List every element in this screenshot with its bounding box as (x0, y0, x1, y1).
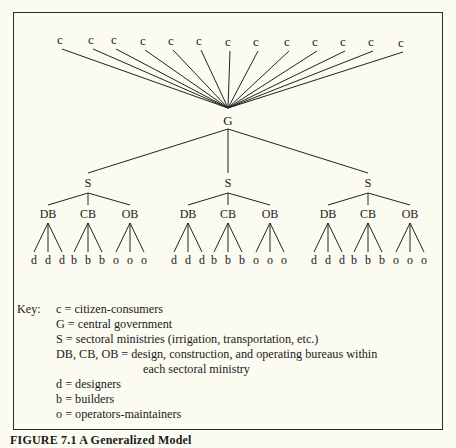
node-leaf-o: o (393, 253, 399, 267)
node-leaf-b: b (211, 253, 217, 267)
edge-line (214, 223, 228, 252)
node-bureau-db: DB (180, 207, 197, 221)
edge-line (368, 193, 410, 205)
edge-line (188, 223, 202, 252)
node-leaf-d: d (325, 253, 331, 267)
edge-line (116, 223, 130, 252)
key-entry-government: G = central government (56, 317, 172, 332)
edge-line (228, 51, 345, 108)
edge-line (74, 223, 88, 252)
edge-line (228, 51, 289, 108)
node-bureau-cb: CB (220, 207, 236, 221)
edge-line (88, 129, 228, 173)
node-leaf-d: d (59, 253, 65, 267)
node-leaf-d: d (185, 253, 191, 267)
node-leaf-o: o (421, 253, 427, 267)
key-label: Key: (17, 302, 41, 317)
node-citizen-consumer: c (368, 34, 374, 49)
node-citizen-consumer: c (88, 32, 94, 47)
node-leaf-b: b (71, 253, 77, 267)
edge-line (116, 49, 228, 108)
node-leaf-b: b (239, 253, 245, 267)
node-leaf-b: b (351, 253, 357, 267)
node-bureau-ob: OB (262, 207, 279, 221)
edge-line (328, 193, 368, 205)
key-entry-citizen: c = citizen-consumers (56, 302, 163, 317)
node-citizen-consumer: c (168, 33, 174, 48)
node-bureau-db: DB (320, 207, 337, 221)
edge-line (145, 50, 228, 108)
edge-line (396, 223, 410, 252)
edge-line (228, 129, 368, 173)
node-leaf-o: o (141, 253, 147, 267)
node-citizen-consumer: c (196, 33, 202, 48)
node-citizen-consumer: c (111, 32, 117, 47)
node-bureau-cb: CB (360, 207, 376, 221)
node-citizen-consumer: c (398, 35, 404, 50)
node-citizen-consumer: c (225, 34, 231, 49)
node-leaf-b: b (99, 253, 105, 267)
edge-line (328, 223, 342, 252)
hierarchy-tree: cccccccccccccGSDBdddCBbbbOBoooSDBdddCBbb… (0, 0, 456, 290)
edge-line (173, 50, 228, 108)
node-leaf-d: d (171, 253, 177, 267)
node-leaf-d: d (31, 253, 37, 267)
node-bureau-ob: OB (402, 207, 419, 221)
node-leaf-d: d (311, 253, 317, 267)
node-sectoral-ministry: S (85, 176, 92, 190)
node-citizen-consumer: c (312, 34, 318, 49)
edge-line (228, 51, 230, 108)
key-entry-bureaus-cont: each sectoral ministry (143, 362, 250, 377)
edge-line (228, 51, 373, 108)
edge-line (228, 52, 403, 108)
edge-line (228, 223, 242, 252)
edge-line (368, 223, 382, 252)
figure-caption: FIGURE 7.1 A Generalized Model (10, 433, 192, 448)
node-citizen-consumer: c (284, 34, 290, 49)
edge-line (228, 193, 270, 205)
node-sectoral-ministry: S (225, 176, 232, 190)
key-entry-builders: b = builders (56, 392, 114, 407)
node-central-government: G (223, 113, 232, 128)
node-citizen-consumer: c (140, 33, 146, 48)
key-entry-operators: o = operators-maintainers (56, 407, 181, 422)
edge-line (48, 223, 62, 252)
edge-line (410, 223, 424, 252)
edge-line (354, 223, 368, 252)
edge-line (130, 223, 144, 252)
node-leaf-b: b (365, 253, 371, 267)
key-entry-designers: d = designers (56, 377, 121, 392)
node-bureau-cb: CB (80, 207, 96, 221)
edge-line (48, 193, 88, 205)
node-citizen-consumer: c (253, 34, 259, 49)
node-leaf-o: o (127, 253, 133, 267)
node-leaf-d: d (45, 253, 51, 267)
key-entry-bureaus: DB, CB, OB = design, construction, and o… (56, 347, 377, 362)
node-bureau-ob: OB (122, 207, 139, 221)
key-entry-sectoral: S = sectoral ministries (irrigation, tra… (56, 332, 318, 347)
node-leaf-d: d (339, 253, 345, 267)
edge-line (174, 223, 188, 252)
edge-line (270, 223, 284, 252)
node-leaf-b: b (225, 253, 231, 267)
node-bureau-db: DB (40, 207, 57, 221)
edge-line (256, 223, 270, 252)
edge-line (201, 50, 228, 108)
node-leaf-b: b (85, 253, 91, 267)
edge-line (314, 223, 328, 252)
node-leaf-b: b (379, 253, 385, 267)
node-citizen-consumer: c (340, 34, 346, 49)
node-leaf-o: o (113, 253, 119, 267)
edge-line (34, 223, 48, 252)
node-leaf-o: o (281, 253, 287, 267)
edge-line (88, 223, 102, 252)
edge-line (62, 49, 228, 108)
edge-line (93, 49, 228, 108)
edge-line (228, 51, 317, 108)
node-leaf-o: o (253, 253, 259, 267)
edge-line (188, 193, 228, 205)
node-leaf-o: o (407, 253, 413, 267)
node-citizen-consumer: c (57, 32, 63, 47)
node-sectoral-ministry: S (365, 176, 372, 190)
edge-line (88, 193, 130, 205)
